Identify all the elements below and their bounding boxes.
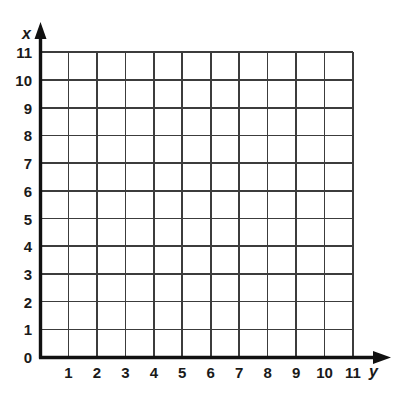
vertical-tick-label: 3 (0, 266, 32, 281)
vertical-tick-label: 8 (0, 128, 32, 143)
vertical-tick-label: 7 (0, 156, 32, 171)
horizontal-tick-label: 11 (345, 365, 361, 380)
horizontal-tick-label: 7 (235, 365, 243, 380)
vertical-tick-label: 10 (0, 73, 32, 88)
horizontal-tick-label: 6 (207, 365, 215, 380)
vertical-tick-label: 5 (0, 211, 32, 226)
horizontal-tick-label: 4 (150, 365, 158, 380)
horizontal-tick-label: 1 (64, 365, 72, 380)
grid-canvas (0, 0, 409, 399)
horizontal-tick-label: 3 (121, 365, 129, 380)
vertical-axis-arrowhead-icon (35, 22, 47, 39)
horizontal-tick-label: 5 (178, 365, 186, 380)
vertical-tick-label: 0 (0, 350, 32, 365)
vertical-tick-label: 9 (0, 100, 32, 115)
horizontal-tick-label: 2 (93, 365, 101, 380)
horizontal-tick-label: 8 (263, 365, 271, 380)
vertical-tick-label: 4 (0, 239, 32, 254)
vertical-tick-label: 1 (0, 322, 32, 337)
horizontal-axis-label: y (369, 364, 378, 380)
grid-lines (40, 52, 353, 357)
coordinate-grid-figure: x y 0 1 2 3 4 5 6 7 8 9 10 11 1 2 3 4 5 … (0, 0, 409, 399)
horizontal-tick-label: 9 (292, 365, 300, 380)
vertical-tick-label: 2 (0, 294, 32, 309)
vertical-tick-label: 11 (0, 45, 32, 60)
axes (35, 22, 392, 364)
horizontal-tick-label: 10 (316, 365, 333, 380)
vertical-tick-label: 6 (0, 183, 32, 198)
vertical-axis-label: x (22, 26, 31, 42)
